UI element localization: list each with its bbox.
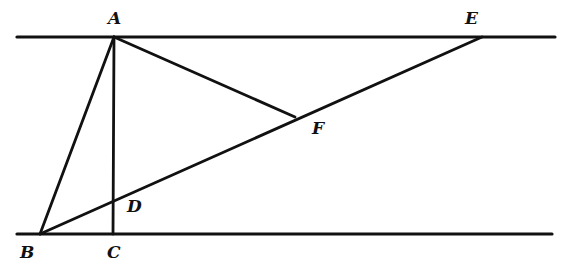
diagram-canvas: A B C D E F (0, 0, 564, 271)
geometry-diagram: A B C D E F (0, 0, 564, 271)
label-C: C (107, 242, 121, 262)
label-E: E (464, 8, 479, 28)
label-A: A (106, 8, 121, 28)
segment-BE (40, 37, 482, 234)
label-B: B (19, 242, 34, 262)
label-D: D (126, 196, 142, 216)
label-F: F (311, 118, 326, 138)
segment-AC (113, 37, 114, 234)
segment-AF (114, 37, 295, 117)
